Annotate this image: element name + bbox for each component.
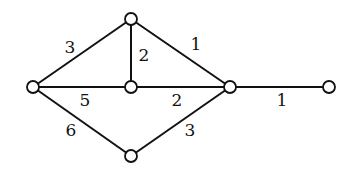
edges-group: [33, 19, 329, 156]
node-bottom: [125, 150, 137, 162]
edge-weight-label: 3: [185, 120, 196, 140]
node-left: [27, 81, 39, 93]
edge-weight-label: 5: [80, 90, 91, 110]
edge-weight-label: 6: [66, 120, 77, 140]
node-far-right: [323, 81, 335, 93]
node-top: [125, 13, 137, 25]
edge-weight-label: 2: [139, 45, 150, 65]
node-middle: [125, 81, 137, 93]
edge-weight-label: 3: [65, 37, 76, 57]
node-right: [224, 81, 236, 93]
edge-weight-label: 1: [277, 90, 288, 110]
edge-weight-label: 1: [191, 34, 202, 54]
graph-diagram: 32152163: [0, 0, 356, 169]
edge-weight-label: 2: [172, 90, 183, 110]
graph-svg: 32152163: [0, 0, 356, 169]
edge-left-top: [33, 19, 131, 87]
